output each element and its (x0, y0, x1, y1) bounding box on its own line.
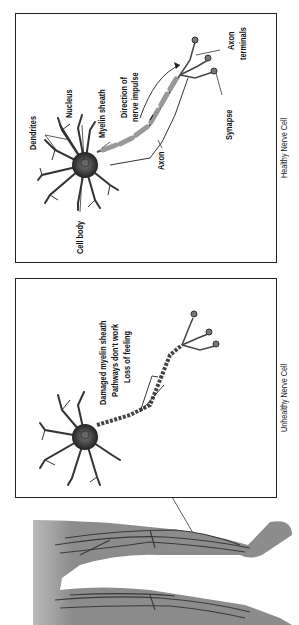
label-damaged-myelin: Damaged myelin sheath (98, 321, 108, 405)
label-axon-terminals-line2: terminals (238, 27, 248, 60)
healthy-neuron-icon (38, 37, 222, 212)
label-synapse: Synapse (224, 110, 234, 140)
label-axon-terminals-line1: Axon (226, 32, 236, 50)
label-pathways: Pathways don't work (110, 324, 120, 397)
label-axon: Axon (156, 152, 166, 170)
label-cell-body: Cell body (75, 221, 85, 254)
label-myelin-sheath: Myelin sheath (97, 89, 107, 138)
label-direction-line1: Direction of (119, 77, 129, 118)
label-dendrites: Dendrites (28, 116, 38, 150)
caption-healthy: Healthy Nerve Cell (279, 118, 289, 178)
label-direction-line2: nerve impulse (130, 72, 140, 122)
legs-icon (33, 520, 292, 625)
diagram-illustration (0, 0, 299, 625)
caption-unhealthy: Unhealthy Nerve Cell (279, 364, 289, 432)
label-loss-of-feeling: Loss of feeling (122, 331, 132, 383)
label-nucleus: Nucleus (64, 89, 74, 118)
